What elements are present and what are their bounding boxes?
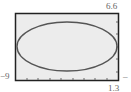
- ymin-label: 1.3: [108, 84, 119, 92]
- ymax-label: 6.6: [106, 2, 117, 11]
- xmin-label: −9: [0, 72, 10, 81]
- xmax-marker: –: [123, 72, 128, 81]
- graph-window: [0, 0, 131, 92]
